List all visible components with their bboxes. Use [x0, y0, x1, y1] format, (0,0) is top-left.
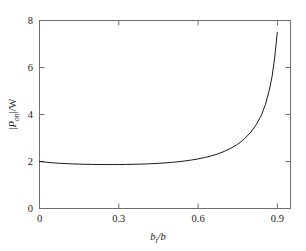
y-tick-label-8: 8 — [28, 15, 33, 26]
y-tick-label-6: 6 — [28, 62, 33, 73]
x-axis-title: bi/b — [150, 231, 166, 245]
figure-canvas: 0 2 4 6 8 0 0.3 0.6 0.9 bi/b |Pon|/W — [0, 0, 306, 251]
x-tick-label-0: 0 — [37, 213, 42, 224]
y-tick-label-0: 0 — [28, 203, 33, 214]
x-tick-label-0.3: 0.3 — [112, 213, 125, 224]
plot-frame — [40, 21, 291, 209]
x-axis-title-tail: /b — [157, 231, 166, 242]
y-axis-title: |Pon|/W — [7, 98, 21, 129]
x-tick-label-0.9: 0.9 — [271, 213, 284, 224]
svg-text:bi/b: bi/b — [150, 231, 166, 245]
y-axis-title-tail: |/W — [7, 98, 18, 113]
svg-text:|Pon|/W: |Pon|/W — [7, 98, 21, 129]
chart-plot: 0 2 4 6 8 0 0.3 0.6 0.9 bi/b |Pon|/W — [0, 0, 306, 251]
y-tick-label-2: 2 — [28, 156, 33, 167]
y-tick-label-4: 4 — [28, 109, 34, 120]
x-tick-label-0.6: 0.6 — [192, 213, 205, 224]
